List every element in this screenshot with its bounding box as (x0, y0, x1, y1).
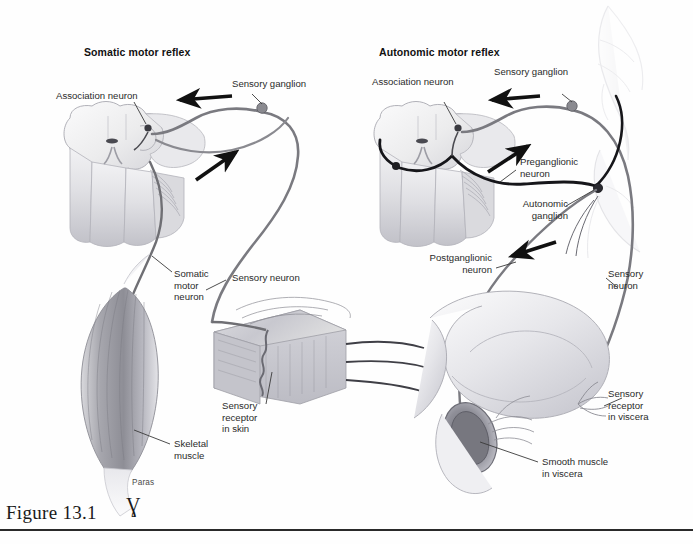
label-sensory-neuron-autonomic: Sensory neuron (608, 268, 643, 291)
label-association-neuron-autonomic: Association neuron (372, 76, 454, 88)
panel-title-somatic: Somatic motor reflex (84, 46, 190, 58)
arrow-afferent-autonomic (492, 96, 540, 100)
artist-signature: Paras (132, 478, 154, 487)
label-sensory-receptor-in-viscera: Sensory receptor in viscera (608, 388, 649, 423)
sensory-ganglion-body-autonomic (567, 101, 577, 111)
trunk-process-3 (602, 84, 608, 120)
label-skeletal-muscle: Skeletal muscle (174, 438, 208, 461)
leader-preganglionic-neuron (500, 170, 516, 182)
peripheral-nerve-strands (346, 342, 428, 392)
skin-block-art (212, 297, 428, 404)
panel-title-autonomic: Autonomic motor reflex (379, 46, 500, 58)
leader-somatic-motor-neuron (152, 256, 172, 272)
figure-container: Somatic motor reflex Autonomic motor ref… (0, 0, 693, 544)
cord-column-2-autonomic (400, 162, 436, 247)
label-smooth-muscle-in-viscera: Smooth muscle in viscera (542, 456, 608, 479)
arrow-efferent-somatic (196, 152, 236, 180)
cord-column-3 (124, 168, 156, 245)
preganglionic-cell-body (392, 162, 400, 170)
caption-divider-rule (0, 529, 693, 531)
label-sensory-neuron-somatic: Sensory neuron (232, 272, 300, 284)
caption-handwritten-mark: Ɣ (126, 494, 140, 517)
cord-column-4-autonomic (462, 172, 494, 238)
leader-sensory-ganglion-somatic (252, 94, 262, 104)
muscle-tendon-top (124, 254, 150, 284)
somatic-panel-art (64, 96, 428, 516)
central-canal-autonomic (416, 139, 428, 144)
association-neuron-body-autonomic (454, 124, 461, 131)
cord-column-2 (90, 162, 126, 247)
label-sensory-ganglion-autonomic: Sensory ganglion (494, 66, 568, 78)
label-autonomic-ganglion: Autonomic ganglion (492, 198, 568, 221)
association-neuron-body-somatic (144, 124, 151, 131)
figure-caption-bar: Figure 13.1 Ɣ (0, 500, 693, 544)
viscera-loop-outer (430, 291, 609, 418)
label-preganglionic-neuron: Preganglionic neuron (520, 156, 578, 179)
skeletal-muscle-art (81, 254, 158, 516)
label-sensory-ganglion-somatic: Sensory ganglion (232, 78, 306, 90)
label-postganglionic-neuron: Postganglionic neuron (396, 252, 492, 275)
arrow-afferent-somatic (180, 96, 232, 100)
arrow-postganglionic-autonomic (512, 242, 556, 256)
label-sensory-receptor-in-skin: Sensory receptor in skin (222, 400, 257, 435)
cord-column-1 (70, 148, 92, 242)
leader-autonomic-ganglion (566, 190, 594, 206)
sensory-ganglion-body (257, 103, 267, 113)
label-association-neuron-somatic: Association neuron (56, 90, 138, 102)
viscera-limb-left (414, 320, 447, 418)
figure-caption-text: Figure 13.1 (6, 502, 97, 524)
label-somatic-motor-neuron: Somatic motor neuron (174, 268, 209, 303)
postganglionic-branches (566, 196, 598, 256)
central-canal (106, 139, 118, 144)
leader-sensory-ganglion-autonomic (562, 94, 572, 102)
cord-column-3-autonomic (434, 168, 466, 245)
